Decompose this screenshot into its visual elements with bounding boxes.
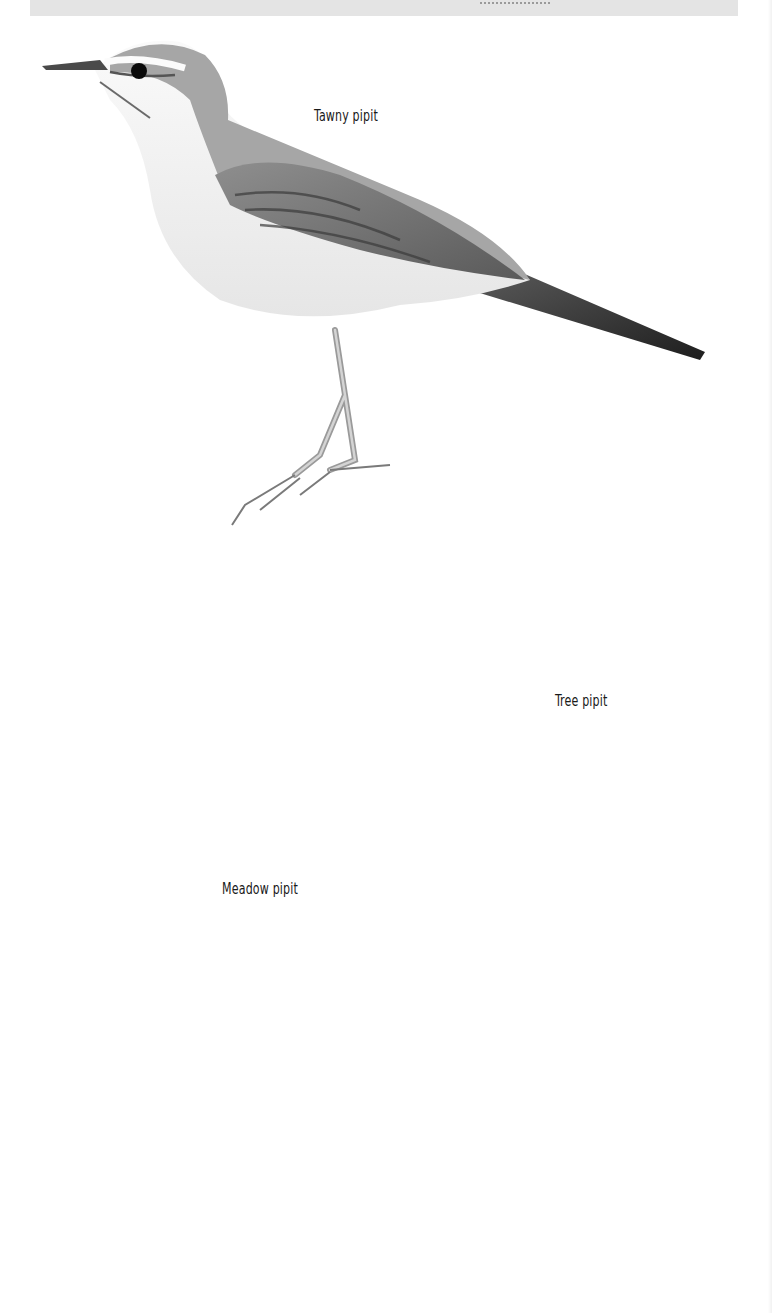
caption-meadow-pipit: Meadow pipit bbox=[222, 880, 298, 898]
illustration-plate bbox=[0, 0, 772, 1313]
caption-tree-pipit: Tree pipit bbox=[555, 692, 608, 710]
caption-tawny-pipit: Tawny pipit bbox=[314, 107, 378, 125]
